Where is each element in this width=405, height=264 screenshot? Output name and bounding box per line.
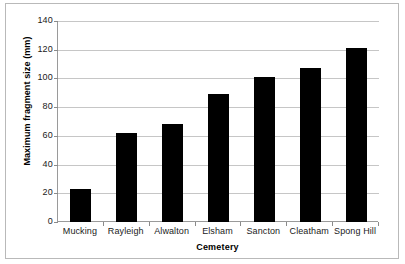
y-tick-label: 40 bbox=[9, 160, 53, 169]
bars-layer bbox=[58, 21, 378, 222]
y-tick-label: 100 bbox=[9, 73, 53, 82]
y-tick-label: 60 bbox=[9, 131, 53, 140]
x-tick-label: Mucking bbox=[57, 226, 103, 237]
x-axis-title: Cemetery bbox=[57, 242, 378, 252]
bar bbox=[70, 189, 91, 222]
y-tick-label: 140 bbox=[9, 16, 53, 25]
y-tick-label: 20 bbox=[9, 188, 53, 197]
x-tick-label: Spong Hill bbox=[332, 226, 378, 237]
x-tick-label: Sancton bbox=[240, 226, 286, 237]
x-tick-label: Rayleigh bbox=[103, 226, 149, 237]
y-axis-tick-labels: 020406080100120140 bbox=[4, 21, 53, 222]
bar bbox=[208, 94, 229, 222]
bar bbox=[116, 133, 137, 222]
y-tick-label: 80 bbox=[9, 102, 53, 111]
bar bbox=[162, 124, 183, 222]
x-tick-label: Elsham bbox=[195, 226, 241, 237]
y-tick-label: 120 bbox=[9, 45, 53, 54]
x-tick-mark bbox=[378, 222, 379, 226]
x-axis-tick-labels: MuckingRayleighAlwaltonElshamSanctonClea… bbox=[57, 226, 378, 240]
x-tick-label: Alwalton bbox=[149, 226, 195, 237]
bar bbox=[346, 48, 367, 222]
y-tick-label: 0 bbox=[9, 217, 53, 226]
bar-chart-figure: Maximum fragment size (mm) 0204060801001… bbox=[0, 0, 405, 264]
bar bbox=[254, 77, 275, 222]
y-tick-mark bbox=[54, 222, 58, 223]
bar bbox=[300, 68, 321, 222]
x-tick-label: Cleatham bbox=[286, 226, 332, 237]
